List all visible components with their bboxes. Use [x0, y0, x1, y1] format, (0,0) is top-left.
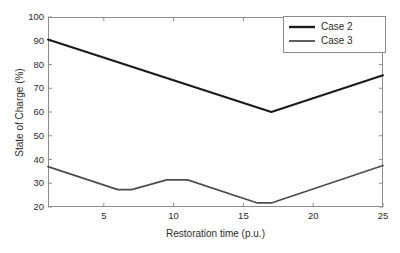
- x-tick-label: 5: [89, 211, 119, 221]
- x-tick-label: 15: [228, 211, 258, 221]
- legend-label: Case 3: [321, 36, 353, 46]
- x-tick-label: 20: [298, 211, 328, 221]
- x-tick-label: 25: [368, 211, 398, 221]
- y-axis-title: State of Charge (%): [14, 38, 25, 188]
- x-tick-label: 10: [159, 211, 189, 221]
- legend-line-swatch-case-3: [289, 38, 315, 44]
- legend-line-swatch-case-2: [289, 24, 315, 30]
- legend-label: Case 2: [321, 22, 353, 32]
- data-series-group: [48, 40, 383, 203]
- legend-item: Case 3: [289, 34, 380, 48]
- y-tick-label: 20: [18, 202, 44, 212]
- chart-legend: Case 2 Case 3: [283, 16, 386, 53]
- y-tick-label: 100: [18, 12, 44, 22]
- x-axis-title: Restoration time (p.u.): [48, 228, 383, 239]
- series-line-case-3: [48, 165, 383, 203]
- chart-figure: 1009080706050403020 Restoration time (p.…: [0, 0, 400, 253]
- legend-item: Case 2: [289, 20, 380, 34]
